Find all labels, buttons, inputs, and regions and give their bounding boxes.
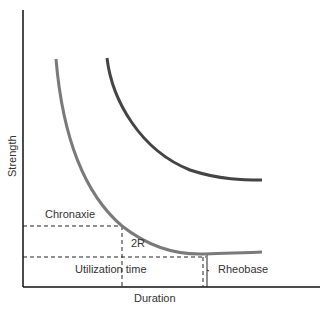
- strength-duration-curve: [56, 59, 262, 254]
- chronaxie-label: Chronaxie: [45, 209, 95, 220]
- rheobase-label: Rheobase: [218, 264, 268, 275]
- shifted-curve: [107, 58, 262, 180]
- diagram-canvas: [0, 0, 324, 309]
- y-axis-label: Strength: [6, 135, 18, 177]
- two-r-label: 2R: [131, 238, 145, 249]
- utilization-time-label: Utilization time: [75, 264, 147, 275]
- x-axis-label: Duration: [134, 293, 176, 304]
